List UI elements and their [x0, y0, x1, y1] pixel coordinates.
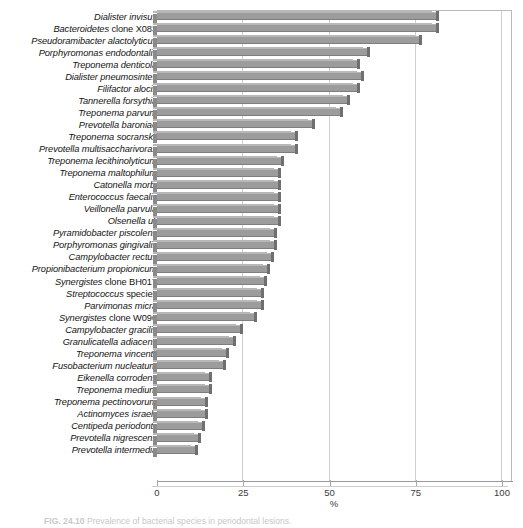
bar-fill [157, 241, 274, 249]
bar-rows: Dialister invisusBacteroidetes clone X08… [0, 11, 523, 457]
category-label: Prevotella intermedia [72, 444, 157, 456]
x-tick-label-0: 0 [154, 487, 159, 498]
bar-top-face [153, 336, 229, 338]
bar-row: Olsenella uli [0, 216, 523, 228]
bar-end-cap [367, 47, 370, 57]
bar [157, 398, 205, 408]
bar-end-cap [261, 288, 264, 298]
x-tick-mark-0 [157, 480, 158, 486]
bar-top-face [153, 252, 267, 254]
bar-row: Prevotella multisaccharivorax [0, 144, 523, 156]
bar [157, 241, 274, 251]
bar-end-cap [233, 336, 236, 346]
category-label: Porphyromonas gingivalis [53, 239, 157, 251]
bar-row: Treponema medium [0, 384, 523, 396]
bar-end-cap [264, 276, 267, 286]
bar-end-cap [254, 312, 257, 322]
x-tick-label-50: 50 [324, 487, 335, 498]
bar-row: Filifactor alocis [0, 83, 523, 95]
category-label: Streptococcus species [66, 288, 157, 300]
bar-end-cap [278, 204, 281, 214]
bar-fill [157, 337, 233, 345]
bar-end-cap [357, 59, 360, 69]
bar [157, 132, 295, 142]
category-label: Prevotella multisaccharivorax [39, 143, 157, 155]
bar-row: Propionibacterium propionicum [0, 264, 523, 276]
bar-row: Campylobacter rectus [0, 252, 523, 264]
bar-row: Enterococcus faecalis [0, 192, 523, 204]
bar-fill [157, 60, 357, 68]
category-label: Bacteroidetes clone X083 [53, 23, 157, 35]
category-label: Pseudoramibacter alactolyticus [31, 35, 157, 47]
bar-top-face [153, 433, 194, 435]
bar-end-cap [278, 192, 281, 202]
bar-left-face [153, 448, 157, 457]
bar-row: Streptococcus species [0, 288, 523, 300]
bar-fill [157, 12, 436, 20]
bar-row: Tannerella forsythia [0, 95, 523, 107]
category-label: Pyramidobacter piscolens [53, 227, 157, 239]
bar-end-cap [202, 421, 205, 431]
category-label: Eikenella corrodens [77, 372, 157, 384]
bar-end-cap [205, 409, 208, 419]
bar-row: Centipeda periodontii [0, 421, 523, 433]
bar-row: Synergistes clone BH017 [0, 276, 523, 288]
category-label: Propionibacterium propionicum [32, 263, 157, 275]
bar-top-face [153, 264, 263, 266]
figure-caption-text: Prevalence of bacterial species in perio… [87, 516, 291, 526]
bar-fill [157, 385, 209, 393]
bar-top-face [153, 83, 353, 85]
category-label: Dialister pneumosintes [65, 71, 157, 83]
bar-top-face [153, 23, 432, 25]
bar-fill [157, 84, 357, 92]
bar [157, 313, 254, 323]
category-label: Granulicatella adiacens [63, 336, 157, 348]
category-label: Campylobacter rectus [69, 251, 157, 263]
bar-row: Prevotella baroniae [0, 119, 523, 131]
bar-fill [157, 132, 295, 140]
x-axis-title: % [330, 498, 338, 509]
bar-fill [157, 373, 209, 381]
x-tick-mark-75 [416, 480, 417, 486]
category-label: Treponema denticola [72, 59, 157, 71]
category-label: Prevotella nigrescens [70, 432, 157, 444]
category-label: Actinomyces israelii [77, 408, 157, 420]
category-label: Treponema parvum [78, 107, 157, 119]
bar-fill [157, 72, 361, 80]
bar-row: Granulicatella adiacens [0, 336, 523, 348]
bar [157, 36, 419, 46]
bar [157, 169, 278, 179]
bar [157, 205, 278, 215]
bar [157, 84, 357, 94]
x-tick-label-25: 25 [238, 487, 249, 498]
bar-top-face [153, 71, 357, 73]
bar-top-face [153, 348, 222, 350]
x-tick-mark-25 [243, 480, 244, 486]
bar-row: Pseudoramibacter alactolyticus [0, 35, 523, 47]
bar-fill [157, 120, 312, 128]
bar-top-face [153, 228, 270, 230]
bar-fill [157, 181, 278, 189]
bar-end-cap [271, 252, 274, 262]
bar-fill [157, 361, 223, 369]
bar [157, 193, 278, 203]
bar-top-face [153, 47, 363, 49]
category-label: Filifactor alocis [97, 83, 157, 95]
bar [157, 229, 274, 239]
category-label: Dialister invisus [94, 11, 157, 23]
bar [157, 120, 312, 130]
bar [157, 349, 226, 359]
bar-end-cap [357, 83, 360, 93]
bar [157, 361, 223, 371]
bar [157, 96, 347, 106]
bar [157, 108, 340, 118]
bar-end-cap [419, 35, 422, 45]
bar-top-face [153, 59, 353, 61]
bar-top-face [153, 324, 236, 326]
bar-top-face [153, 180, 274, 182]
bar [157, 217, 278, 227]
bar-row: Treponema maltophilum [0, 168, 523, 180]
bar [157, 12, 436, 22]
bar-end-cap [278, 216, 281, 226]
bar-fill [157, 289, 261, 297]
